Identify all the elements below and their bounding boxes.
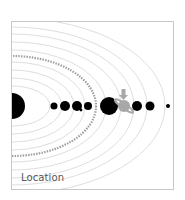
solar-system-diagram <box>12 22 174 190</box>
pluto-icon <box>166 104 170 108</box>
location-diagram-frame: Location <box>11 21 174 190</box>
mercury-icon <box>51 103 58 110</box>
moon-icon <box>80 109 83 112</box>
sun-icon <box>12 93 25 119</box>
venus-icon <box>60 101 70 111</box>
uranus-icon <box>132 101 142 111</box>
neptune-icon <box>146 102 155 111</box>
mars-icon <box>84 102 92 110</box>
caption-label: Location <box>21 172 64 183</box>
